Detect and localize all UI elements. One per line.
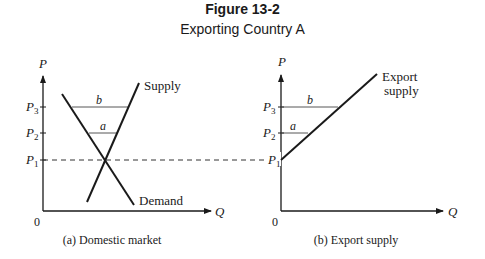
panel-export-supply: P Q 0 P3 P2 P1 b a Export supply (b) Exp…	[262, 54, 458, 247]
price-label-p2: P2	[25, 125, 38, 142]
y-axis-label: P	[277, 54, 286, 69]
price-label-p2: P2	[262, 125, 275, 142]
demand-label: Demand	[139, 193, 184, 208]
panel-caption: (a) Domestic market	[63, 233, 162, 247]
price-label-p1: P1	[25, 152, 38, 169]
panel-caption: (b) Export supply	[314, 233, 399, 247]
diagram-canvas: P Q 0 P3 P2 P1 b a Supply Demand (a) Dom…	[0, 0, 485, 259]
supply-curve	[87, 83, 139, 202]
gap-label-a: a	[290, 119, 296, 133]
gap-label-b: b	[96, 93, 102, 107]
gap-label-b: b	[307, 93, 313, 107]
export-supply-label-line2: supply	[384, 83, 419, 98]
export-supply-curve	[281, 74, 377, 160]
origin-label: 0	[34, 215, 40, 229]
x-axis-label: Q	[448, 204, 458, 219]
y-axis-label: P	[38, 56, 47, 71]
x-axis-label: Q	[215, 204, 225, 219]
supply-label: Supply	[144, 78, 181, 93]
panel-domestic-market: P Q 0 P3 P2 P1 b a Supply Demand (a) Dom…	[25, 56, 225, 247]
export-supply-label-line1: Export	[382, 69, 418, 84]
price-label-p3: P3	[262, 99, 276, 116]
demand-curve	[62, 94, 134, 205]
gap-label-a: a	[100, 119, 106, 133]
price-label-p3: P3	[25, 99, 39, 116]
origin-label: 0	[272, 215, 278, 229]
